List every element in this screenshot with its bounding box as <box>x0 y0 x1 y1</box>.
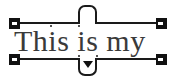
handle-notch <box>158 22 163 25</box>
text-content[interactable]: This is my <box>14 21 166 61</box>
resize-handle-top-left[interactable] <box>9 18 20 29</box>
resize-handle-top-right[interactable] <box>156 18 167 29</box>
handle-notch <box>12 58 17 61</box>
dropdown-handle[interactable] <box>78 58 97 76</box>
top-tab-handle[interactable] <box>78 5 97 24</box>
chevron-down-icon <box>83 61 93 68</box>
resize-handle-bottom-right[interactable] <box>156 54 167 65</box>
text-selection-widget: This is my <box>0 0 176 81</box>
handle-notch <box>12 22 17 25</box>
handle-notch <box>158 58 163 61</box>
resize-handle-bottom-left[interactable] <box>9 54 20 65</box>
